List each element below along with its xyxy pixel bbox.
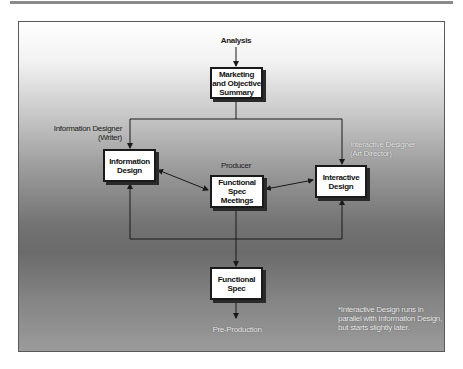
producer-role-label: Producer [214,161,258,170]
pre-production-label: Pre-Production [206,325,268,334]
interactive-design-node: Interactive Design [315,165,367,198]
footnote-text: *Interactive Design runs in parallel wit… [338,305,448,332]
interactive-designer-role-label: Interactive Designer (Art Director) [350,140,430,158]
information-designer-role-label: Information Designer (Writer) [50,124,122,142]
analysis-label: Analysis [214,36,258,45]
information-design-node: Information Design [103,149,156,182]
functional-spec-node: Functional Spec [210,267,263,300]
marketing-objective-summary-node: Marketing and Objective Summary [210,67,263,99]
functional-spec-meetings-node: Functional Spec Meetings [210,175,264,208]
